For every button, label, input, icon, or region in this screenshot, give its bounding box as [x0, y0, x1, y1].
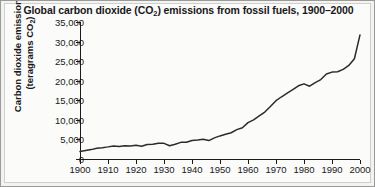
x-tick-mark: [164, 160, 165, 164]
x-tick-label: 1930: [153, 164, 174, 175]
plot-area: 05,00010,00015,00020,00025,00030,00035,0…: [1, 1, 375, 187]
x-tick-mark: [304, 160, 305, 164]
x-tick-mark: [192, 160, 193, 164]
x-tick-label: 1990: [321, 164, 342, 175]
x-tick-mark: [332, 160, 333, 164]
x-tick-mark: [248, 160, 249, 164]
y-tick-mark: [76, 81, 80, 82]
x-tick-label: 1940: [181, 164, 202, 175]
x-tick-mark: [360, 160, 361, 164]
x-tick-mark: [108, 160, 109, 164]
x-tick-label: 1970: [265, 164, 286, 175]
y-tick-mark: [76, 120, 80, 121]
y-tick-mark: [76, 22, 80, 23]
x-tick-label: 1950: [209, 164, 230, 175]
chart-figure: Global carbon dioxide (CO2) emissions fr…: [0, 0, 375, 187]
x-tick-label: 1900: [69, 164, 90, 175]
emissions-line: [80, 35, 360, 152]
x-tick-mark: [276, 160, 277, 164]
x-tick-mark: [220, 160, 221, 164]
y-tick-label: 5,000: [60, 134, 84, 145]
y-tick-mark: [76, 42, 80, 43]
x-tick-label: 1910: [97, 164, 118, 175]
x-tick-mark: [136, 160, 137, 164]
y-tick-mark: [76, 100, 80, 101]
x-tick-label: 2000: [349, 164, 370, 175]
x-tick-mark: [80, 160, 81, 164]
x-tick-label: 1920: [125, 164, 146, 175]
x-tick-label: 1960: [237, 164, 258, 175]
y-tick-mark: [76, 139, 80, 140]
x-tick-label: 1980: [293, 164, 314, 175]
y-tick-mark: [76, 61, 80, 62]
